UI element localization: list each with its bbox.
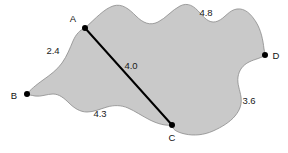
- distance-label-ab: 2.4: [46, 45, 59, 56]
- vertex-dot-b: [24, 91, 30, 97]
- figure-canvas: A B C D 2.4 4.0 4.3 4.8 3.6: [0, 0, 288, 153]
- vertex-dot-c: [169, 122, 175, 128]
- vertex-label-a: A: [70, 13, 77, 24]
- vertex-label-d: D: [273, 50, 280, 61]
- vertex-dot-d: [262, 52, 268, 58]
- shaded-region: [27, 4, 265, 135]
- distance-label-ac: 4.0: [124, 60, 137, 71]
- geometry-figure: A B C D 2.4 4.0 4.3 4.8 3.6: [0, 0, 288, 153]
- distance-label-cd: 3.6: [242, 95, 255, 106]
- vertex-label-b: B: [11, 90, 17, 101]
- vertex-label-c: C: [169, 132, 176, 143]
- distance-label-bc: 4.3: [93, 108, 106, 119]
- vertex-dot-a: [82, 25, 88, 31]
- distance-label-ad: 4.8: [199, 7, 212, 18]
